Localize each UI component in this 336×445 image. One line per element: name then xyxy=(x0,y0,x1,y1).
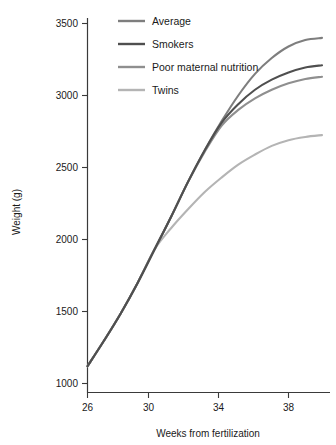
y-tick-label: 1500 xyxy=(56,306,79,317)
y-tick-label: 2500 xyxy=(56,162,79,173)
x-axis-title: Weeks from fertilization xyxy=(156,428,260,439)
x-tick-marks xyxy=(88,393,289,399)
series-line xyxy=(88,77,323,366)
y-tick-label: 1000 xyxy=(56,378,79,389)
y-tick-marks xyxy=(82,24,88,384)
series-line xyxy=(88,135,323,366)
series-line xyxy=(88,65,323,366)
y-tick-label: 2000 xyxy=(56,234,79,245)
legend-label: Twins xyxy=(152,84,179,96)
legend-label: Poor maternal nutrition xyxy=(152,61,258,73)
y-tick-label: 3500 xyxy=(56,18,79,29)
growth-chart-figure: 3500 3000 2500 2000 1500 1000 26 30 34 3… xyxy=(0,0,336,445)
y-tick-label: 3000 xyxy=(56,90,79,101)
y-tick-labels: 3500 3000 2500 2000 1500 1000 xyxy=(56,18,79,389)
y-axis-title: Weight (g) xyxy=(11,189,22,235)
x-tick-label: 34 xyxy=(213,402,225,413)
chart-svg: 3500 3000 2500 2000 1500 1000 26 30 34 3… xyxy=(0,0,336,445)
chart-legend: AverageSmokersPoor maternal nutritionTwi… xyxy=(118,15,258,96)
data-series-group xyxy=(88,38,323,366)
axis-lines xyxy=(88,18,331,393)
legend-label: Smokers xyxy=(152,38,193,50)
x-tick-label: 30 xyxy=(143,402,155,413)
legend-label: Average xyxy=(152,15,191,27)
x-tick-label: 26 xyxy=(82,402,94,413)
series-line xyxy=(88,38,323,366)
x-tick-labels: 26 30 34 38 xyxy=(82,402,295,413)
x-tick-label: 38 xyxy=(283,402,295,413)
